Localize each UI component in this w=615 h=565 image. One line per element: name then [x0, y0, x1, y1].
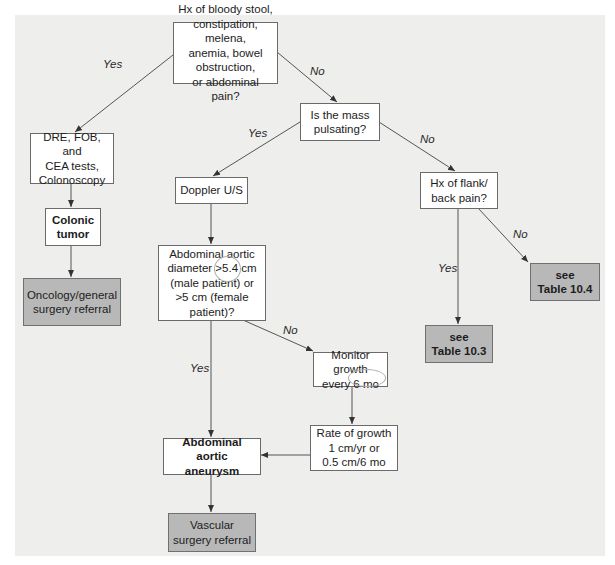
node-mass-pulsating: Is the mass pulsating? — [300, 103, 380, 141]
node-colonic-tumor: Colonic tumor — [45, 208, 101, 246]
node-flank-back-pain: Hx of flank/ back pain? — [420, 172, 498, 209]
edge-label-pulsating-no: No — [420, 133, 435, 145]
node-start-question: Hx of bloody stool, constipation, melena… — [173, 22, 278, 84]
node-rate-of-growth: Rate of growth 1 cm/yr or 0.5 cm/6 mo — [310, 425, 398, 471]
pen-circle-annotation-2 — [348, 369, 386, 387]
node-aortic-diameter: Abdominal aortic diameter >5.4 cm (male … — [158, 245, 266, 321]
node-oncology-referral-text: Oncology/general surgery referral — [27, 288, 117, 317]
node-colonic-tumor-text: Colonic tumor — [52, 213, 94, 242]
edge-label-start-yes: Yes — [103, 58, 122, 70]
node-see-table-10-4: see Table 10.4 — [530, 263, 600, 301]
edge-label-diameter-no: No — [283, 324, 298, 336]
node-aortic-diameter-text: Abdominal aortic diameter >5.4 cm (male … — [167, 247, 256, 320]
edge-label-diameter-yes: Yes — [190, 362, 209, 374]
node-table-10-3-text: see Table 10.3 — [432, 330, 487, 359]
node-start-question-text: Hx of bloody stool, constipation, melena… — [177, 2, 274, 104]
node-vascular-referral-text: Vascular surgery referral — [173, 518, 251, 547]
node-vascular-referral: Vascular surgery referral — [168, 513, 256, 552]
edge-label-flank-yes: Yes — [438, 262, 457, 274]
node-table-10-4-text: see Table 10.4 — [538, 268, 593, 297]
node-dre-text: DRE, FOB, and CEA tests, Colonoscopy — [34, 130, 110, 188]
node-flank-text: Hx of flank/ back pain? — [430, 176, 488, 205]
pen-circle-annotation — [214, 256, 241, 282]
node-oncology-referral: Oncology/general surgery referral — [23, 278, 121, 326]
node-see-table-10-3: see Table 10.3 — [425, 325, 493, 363]
edge-start-to-pulsating — [277, 52, 337, 102]
edge-pulsating-to-flank — [379, 122, 455, 171]
node-doppler-us: Doppler U/S — [175, 177, 248, 204]
edge-label-pulsating-yes: Yes — [248, 127, 267, 139]
node-dre-fob-cea-colonoscopy: DRE, FOB, and CEA tests, Colonoscopy — [30, 133, 114, 184]
edge-start-to-dre — [75, 55, 173, 132]
node-abdominal-aortic-aneurysm: Abdominal aortic aneurysm — [163, 438, 261, 475]
edge-diameter-to-monitor — [243, 320, 313, 351]
node-mass-pulsating-text: Is the mass pulsating? — [311, 108, 370, 137]
edge-label-flank-no: No — [513, 228, 528, 240]
edge-label-start-no: No — [310, 65, 325, 77]
node-doppler-text: Doppler U/S — [180, 183, 243, 198]
node-rate-of-growth-text: Rate of growth 1 cm/yr or 0.5 cm/6 mo — [317, 426, 392, 470]
node-aaa-text: Abdominal aortic aneurysm — [167, 435, 257, 479]
